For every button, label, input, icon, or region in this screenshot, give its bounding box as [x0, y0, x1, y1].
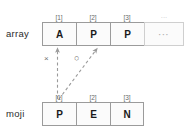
array-index-ellipsis: ···: [144, 14, 184, 21]
array-cells-row: A P P ···: [42, 22, 184, 46]
mismatch-mark-icon: ×: [44, 55, 49, 63]
array-row-label: array: [6, 28, 29, 39]
array-index-1: [1]: [42, 14, 76, 21]
array-index-3: [3]: [110, 14, 144, 21]
array-cell-3[interactable]: P: [110, 22, 144, 46]
match-mark-icon: ○: [74, 54, 79, 63]
moji-row-label: moji: [6, 108, 25, 119]
array-cell-ellipsis[interactable]: ···: [144, 22, 184, 46]
moji-cells-row: P E N: [42, 102, 144, 126]
array-index-2: [2]: [76, 14, 110, 21]
moji-cell-3[interactable]: N: [110, 102, 144, 126]
array-cell-2[interactable]: P: [76, 22, 110, 46]
diagram-canvas: array [1] [2] [3] ··· A P P ··· × ○ [1] …: [0, 0, 186, 135]
moji-index-2: [2]: [76, 94, 110, 101]
array-cell-1[interactable]: A: [42, 22, 76, 46]
moji-cell-1[interactable]: P: [42, 102, 76, 126]
moji-index-3: [3]: [110, 94, 144, 101]
moji-cell-2[interactable]: E: [76, 102, 110, 126]
moji-index-1: [1]: [42, 94, 76, 101]
